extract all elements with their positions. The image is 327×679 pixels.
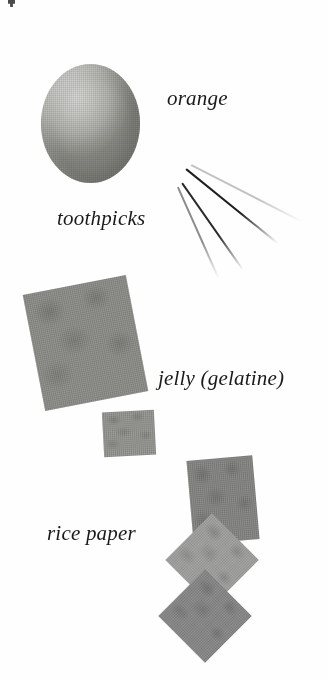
label-rice-paper: rice paper (47, 523, 136, 544)
label-orange: orange (167, 88, 228, 109)
sheet-texture (23, 275, 149, 411)
rice-paper-bottom (158, 569, 251, 662)
jelly-sheet-small (102, 410, 156, 458)
jelly-sheet-large (23, 275, 149, 411)
label-jelly: jelly (gelatine) (158, 368, 284, 389)
toothpick-4 (191, 164, 303, 222)
label-toothpicks: toothpicks (57, 208, 145, 229)
sheet-texture (102, 410, 156, 458)
orange-photo (41, 64, 140, 183)
materials-figure: orange toothpicks jelly (gelatine) rice … (0, 0, 327, 679)
cropped-text-fragment (8, 0, 15, 7)
sheet-texture (158, 569, 251, 662)
toothpick-3 (177, 186, 219, 278)
toothpick-2 (181, 182, 244, 270)
